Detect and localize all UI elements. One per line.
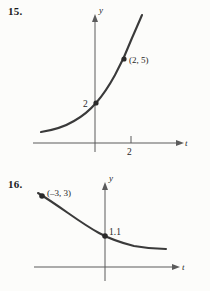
textbook-figure-page: 15. y t 2 2 (2, 5) 16. <box>0 0 210 291</box>
x-tick-label-15: 2 <box>127 147 132 157</box>
figure-15: 15. y t 2 2 (2, 5) <box>0 0 210 160</box>
y-intercept-label-15: 2 <box>83 99 88 109</box>
y-axis-arrowhead-icon-15 <box>92 14 98 22</box>
point-marker-y-intercept-16 <box>102 233 108 239</box>
x-axis-label-15: t <box>185 138 188 148</box>
graph-16-canvas: y t (–3, 3) 1.1 <box>0 160 210 291</box>
point-marker-neg3-3 <box>39 193 45 199</box>
y-axis-label-16: y <box>108 173 113 183</box>
x-axis-arrowhead-icon-15 <box>176 140 184 146</box>
y-axis-label-15: y <box>98 5 103 15</box>
point-marker-2-5 <box>121 56 126 61</box>
exponential-decay-curve <box>38 193 166 249</box>
graph-15-canvas: y t 2 2 (2, 5) <box>0 0 210 160</box>
figure-16: 16. y t (–3, 3) 1.1 <box>0 160 210 291</box>
x-axis-arrowhead-icon-16 <box>172 264 180 270</box>
point-marker-y-intercept-15 <box>93 100 98 105</box>
x-axis-label-16: t <box>182 262 185 272</box>
y-intercept-label-16: 1.1 <box>109 227 121 237</box>
point-label-neg3-3: (–3, 3) <box>47 188 71 198</box>
y-axis-arrowhead-icon-16 <box>102 182 108 190</box>
point-label-2-5: (2, 5) <box>129 55 149 65</box>
exponential-growth-curve <box>41 15 142 132</box>
